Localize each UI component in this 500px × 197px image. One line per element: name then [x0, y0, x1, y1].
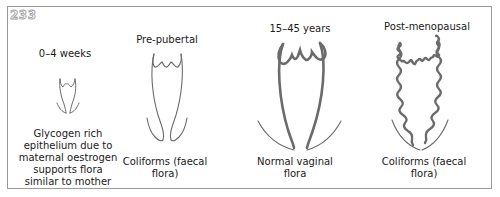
vagina-diagrams: [0, 0, 500, 197]
vagina-shape-post-menopausal: [392, 36, 448, 150]
vagina-shape-15-45-years: [258, 43, 341, 150]
vagina-shape-0-4-weeks: [57, 79, 79, 113]
vagina-shape-pre-pubertal: [147, 54, 187, 141]
